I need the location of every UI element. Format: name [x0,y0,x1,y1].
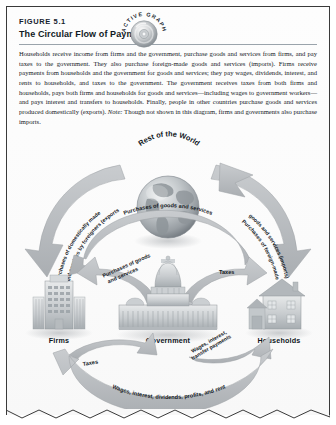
active-graph-badge: ACTIVE GRAPH [120,9,168,53]
header-divider [19,44,317,45]
circular-flow-diagram: Rest of the World Purchases of domestica… [7,119,329,409]
torn-page-edge [6,407,330,421]
figure-header: FIGURE 5.1 The Circular Flow of Payments [7,7,329,45]
figure-title: The Circular Flow of Payments [19,29,317,39]
cd-disc-icon [131,21,157,47]
node-label-firms: Firms [49,336,70,345]
node-firms [25,275,93,340]
node-label-rest-of-the-world: Rest of the World [137,129,202,148]
flow-label-taxes-firms-government: Taxes [82,359,98,367]
caption-note-word: Note: [108,108,123,115]
figure-page: FIGURE 5.1 The Circular Flow of Payments [6,6,330,415]
flow-arrow-imports [211,163,311,277]
figure-caption: Households receive income from firms and… [19,49,317,127]
flow-label-taxes-households-government: Taxes [219,269,234,275]
node-households [245,279,313,340]
caption-part-1: Households receive income from firms and… [19,50,317,115]
figure-number: FIGURE 5.1 [19,17,317,26]
